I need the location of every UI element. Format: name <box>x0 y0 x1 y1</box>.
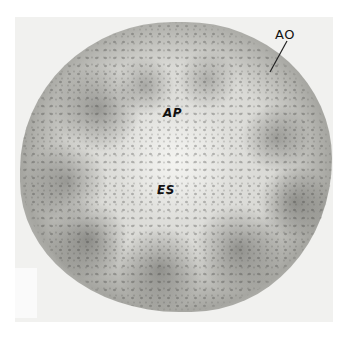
label-es: ES <box>157 183 175 197</box>
label-ao: AO <box>275 27 295 42</box>
ao-pointer-line <box>0 0 345 337</box>
label-ap: AP <box>163 106 182 120</box>
